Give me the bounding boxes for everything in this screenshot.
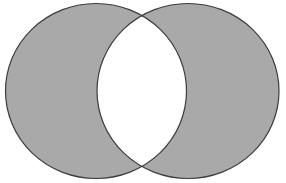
venn-diagram (0, 0, 286, 183)
right-set-only-region (97, 4, 279, 179)
